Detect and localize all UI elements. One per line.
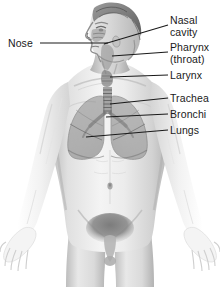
label-lungs: Lungs (170, 125, 199, 137)
label-nasal-cavity: Nasalcavity (170, 15, 197, 38)
label-bronchi-line-0: Bronchi (170, 109, 206, 121)
label-larynx: Larynx (170, 70, 202, 82)
label-trachea-line-0: Trachea (170, 93, 209, 105)
label-pharynx: Pharynx(throat) (170, 42, 209, 65)
label-lungs-line-0: Lungs (170, 125, 199, 137)
label-pharynx-line-0: Pharynx (170, 42, 209, 54)
label-bronchi: Bronchi (170, 109, 206, 121)
label-larynx-line-0: Larynx (170, 70, 202, 82)
label-nasal-cavity-line-0: Nasal (170, 15, 197, 27)
anatomy-figure: NoseNasalcavityPharynx(throat)LarynxTrac… (0, 0, 220, 287)
label-pharynx-line-1: (throat) (170, 54, 209, 66)
label-nose: Nose (8, 38, 33, 50)
label-trachea: Trachea (170, 93, 209, 105)
label-nose-line-0: Nose (8, 38, 33, 50)
label-nasal-cavity-line-1: cavity (170, 27, 197, 39)
